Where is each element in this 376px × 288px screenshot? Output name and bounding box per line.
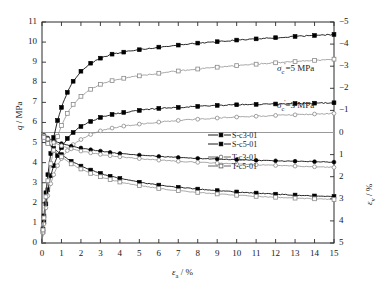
data-marker: [274, 195, 278, 199]
data-marker: [52, 148, 56, 152]
data-marker: [215, 103, 219, 107]
x-tick-label-4: 4: [112, 248, 128, 258]
y-axis-left-label: q / MPa: [14, 101, 24, 130]
y-tick-label-right-5: 5: [339, 237, 344, 247]
x-tick-label-5: 5: [131, 248, 147, 258]
data-marker: [196, 67, 200, 71]
data-marker: [254, 62, 258, 66]
data-marker: [110, 113, 114, 117]
annotation-sigma-sub-3: c: [281, 105, 284, 112]
data-marker: [196, 160, 200, 164]
data-marker: [215, 157, 219, 161]
data-marker: [293, 164, 297, 168]
y-tick-label-left-8: 8: [33, 76, 38, 86]
data-marker: [313, 165, 317, 169]
data-marker: [137, 74, 141, 78]
legend-label-3: T-c5-01: [232, 162, 257, 171]
annotation-sigma-5mpa: σc'=5 MPa: [277, 61, 314, 75]
legend-label-0: S-c3-01: [232, 131, 257, 140]
data-marker: [332, 160, 336, 164]
data-marker: [196, 41, 200, 45]
data-marker: [52, 173, 56, 177]
data-marker: [196, 156, 200, 160]
data-marker: [99, 175, 103, 179]
y-tick-label-left-5: 5: [33, 137, 38, 147]
data-marker: [332, 166, 336, 170]
data-marker: [196, 117, 200, 121]
data-marker: [89, 133, 93, 137]
y-axis-right-unit: / %: [364, 184, 374, 196]
data-marker: [71, 102, 75, 106]
data-marker: [274, 159, 278, 163]
legend-label-2: T-c3-01: [232, 153, 257, 162]
data-marker: [176, 159, 180, 163]
data-marker: [99, 82, 103, 86]
data-marker: [332, 112, 336, 116]
series-line-T-c5-01: [42, 59, 334, 243]
data-marker: [118, 180, 122, 184]
data-marker: [108, 178, 112, 182]
data-marker: [176, 119, 180, 123]
x-axis-subscript: a: [176, 272, 179, 279]
data-marker: [89, 120, 93, 124]
data-marker: [71, 131, 75, 135]
data-marker: [65, 137, 69, 141]
data-marker: [293, 196, 297, 200]
series-line-S-c3-01: [42, 103, 334, 243]
data-marker: [110, 126, 114, 130]
y-tick-label-left-1: 1: [33, 217, 38, 227]
y-axis-right-label: εv / %: [364, 184, 376, 205]
data-marker: [235, 64, 239, 68]
series-line-S-c5-01-vol: [42, 133, 334, 197]
data-marker: [118, 155, 122, 159]
y-tick-label-left-6: 6: [33, 116, 38, 126]
data-marker: [313, 197, 317, 201]
data-marker: [157, 106, 161, 110]
data-marker: [157, 71, 161, 75]
data-marker: [122, 111, 126, 115]
y-tick-label-right-1: 1: [339, 149, 344, 159]
data-marker: [69, 147, 73, 151]
y-axis-left-symbol: q: [14, 126, 24, 131]
data-marker: [42, 135, 46, 139]
data-marker: [56, 119, 60, 123]
y-tick-label-left-4: 4: [33, 157, 38, 167]
x-tick-label-11: 11: [248, 248, 264, 258]
data-marker: [176, 189, 180, 193]
annotation-sigma-3mpa: σc'=3 MPa: [277, 98, 314, 112]
data-marker: [235, 103, 239, 107]
data-marker: [176, 105, 180, 109]
data-marker: [157, 158, 161, 162]
data-marker: [137, 122, 141, 126]
data-marker: [79, 94, 83, 98]
x-tick-label-10: 10: [229, 248, 245, 258]
data-marker: [60, 105, 64, 109]
annotation-sigma-sub-5: c: [281, 68, 284, 75]
data-marker: [137, 184, 141, 188]
x-tick-label-1: 1: [53, 248, 69, 258]
data-marker: [41, 228, 45, 232]
data-marker: [157, 120, 161, 124]
data-marker: [293, 35, 297, 39]
data-marker: [99, 56, 103, 60]
data-marker: [219, 155, 223, 159]
data-marker: [99, 152, 103, 156]
data-marker: [215, 192, 219, 196]
data-marker: [176, 69, 180, 73]
x-axis-unit: / %: [181, 267, 193, 277]
data-marker: [122, 124, 126, 128]
data-marker: [215, 161, 219, 165]
x-tick-label-0: 0: [34, 248, 50, 258]
data-marker: [137, 157, 141, 161]
data-marker: [137, 48, 141, 52]
y-tick-label-left-11: 11: [28, 16, 37, 26]
y-tick-label-right-4: 4: [339, 215, 344, 225]
y-tick-label-right-2: 2: [339, 171, 344, 181]
annotation-sigma-rest-5: =5 MPa: [286, 63, 315, 73]
data-marker: [79, 167, 83, 171]
data-marker: [89, 171, 93, 175]
data-marker: [60, 124, 64, 128]
y-tick-label-right--2: −2: [339, 82, 349, 92]
